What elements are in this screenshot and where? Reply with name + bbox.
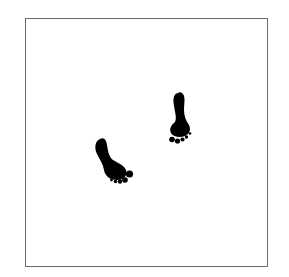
footprints-illustration: [0, 0, 289, 277]
left-footprint-icon: [95, 138, 133, 183]
right-footprint-icon: [169, 92, 191, 143]
